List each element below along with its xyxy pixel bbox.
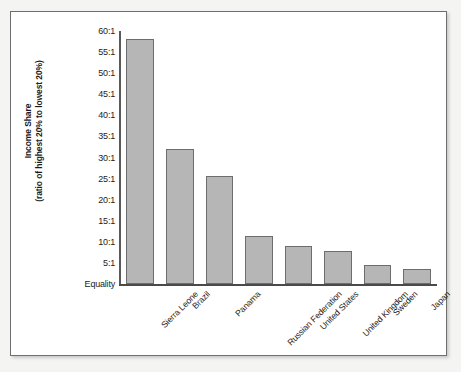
figure-frame: Income Share (ratio of highest 20% to lo… [10,11,447,356]
y-tick-label: 50:1 [98,68,115,78]
y-tick-label: Equality [85,279,115,289]
bar-sierra-leone [126,39,154,284]
x-tick-label: Sierra Leone [159,289,200,330]
y-axis-title-line1: Income Share [23,31,34,231]
y-tick-label: 15:1 [98,216,115,226]
y-tick-label: 25:1 [98,174,115,184]
y-tick-label: 10:1 [98,237,115,247]
x-tick-label: United Kingdom [360,289,409,338]
bar-united-states [285,246,313,284]
y-axis-title-line2: (ratio of highest 20% to lowest 20%) [34,31,45,231]
x-axis-line [119,284,437,286]
y-tick-label: 20:1 [98,195,115,205]
y-tick-label: 45:1 [98,89,115,99]
y-tick-label: 5:1 [103,258,115,268]
bar-series [121,31,438,284]
page-background: Income Share (ratio of highest 20% to lo… [0,0,461,372]
y-tick-label: 55:1 [98,47,115,57]
bar-chart: Income Share (ratio of highest 20% to lo… [11,12,446,355]
bar-panama [206,176,234,284]
y-tick-label: 40:1 [98,110,115,120]
y-tick-label: 35:1 [98,131,115,141]
y-axis-title: Income Share (ratio of highest 20% to lo… [23,31,45,231]
x-tick-label: Panama [233,289,262,318]
axis-box: 60:155:150:145:140:135:130:125:120:115:1… [119,31,437,284]
y-tick-label: 30:1 [98,153,115,163]
bar-brazil [166,149,194,284]
bar-united-kingdom [324,251,352,284]
bar-japan [403,269,431,284]
y-tick-label: 60:1 [98,26,115,36]
x-tick-label: Japan [429,289,452,312]
bar-russian-federation [245,236,273,284]
bar-sweden [364,265,392,284]
